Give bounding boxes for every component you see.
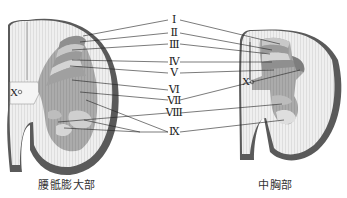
lamina-label-9: Ⅸ (169, 126, 179, 137)
lamina-label-8: Ⅷ (166, 107, 183, 118)
lamina-label-7: Ⅶ (167, 95, 181, 106)
lumbosacral-section (7, 19, 118, 175)
caption-thoracic: 中胸部 (258, 176, 293, 192)
lamina-label-1: Ⅰ (172, 14, 176, 25)
lamina-x-label-right: X (242, 75, 250, 87)
lamina-label-5: Ⅴ (170, 67, 177, 78)
spinal-cord-laminae-diagram: Ⅰ Ⅱ Ⅲ Ⅳ Ⅴ Ⅵ Ⅶ Ⅷ Ⅸ X X 腰骶膨大部 中胸部 (0, 0, 347, 198)
lamina-label-3: Ⅲ (169, 39, 179, 50)
lamina-label-2: Ⅱ (171, 27, 178, 38)
lamina-x-label-left: X (10, 86, 18, 98)
thoracic-section (239, 29, 341, 160)
caption-lumbosacral: 腰骶膨大部 (38, 176, 96, 192)
